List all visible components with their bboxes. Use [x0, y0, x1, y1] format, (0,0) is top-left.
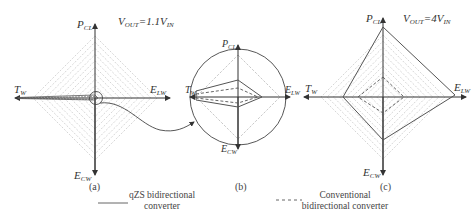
legend-item-conventional: Conventional bidirectional converter — [276, 190, 389, 211]
legend-item-qzs: qZS bidirectional converter — [98, 190, 195, 211]
axis-label-bottom: ECW — [362, 166, 381, 180]
axis-label-top: PCL — [221, 38, 236, 50]
axis-label-right: ELW — [284, 84, 300, 96]
legend-label-line2: converter — [144, 201, 181, 211]
radar-comparison-diagram: PCL ECW TW ELW VOUT=1.1VIN (a) PCL ECW T… — [0, 0, 476, 224]
panel-a: PCL ECW TW ELW VOUT=1.1VIN (a) — [14, 15, 194, 193]
legend-label-line1: Conventional — [319, 190, 371, 200]
legend: qZS bidirectional converter Conventional… — [98, 190, 389, 211]
axis-label-top: PCL — [365, 12, 381, 26]
conventional-polygon — [196, 88, 258, 103]
axis-label-left: TW — [14, 83, 27, 97]
condition-label: VOUT=4VIN — [403, 12, 451, 26]
axis-label-right: ELW — [149, 83, 167, 97]
axis-label-top: PCL — [76, 18, 92, 32]
condition-label: VOUT=1.1VIN — [118, 15, 174, 29]
qzs-polygon — [196, 80, 262, 107]
zoom-connector-arrow — [100, 103, 194, 131]
axis-label-left: TW — [185, 84, 197, 96]
legend-label-line2: bidirectional converter — [302, 201, 389, 211]
caption: (a) — [89, 181, 100, 193]
caption: (c) — [380, 181, 391, 193]
legend-label-line1: qZS bidirectional — [129, 190, 196, 200]
panel-c: PCL ECW TW ELW VOUT=4VIN (c) — [304, 12, 471, 193]
panel-b: PCL ECW TW ELW (b) — [185, 38, 300, 193]
axis-label-right: ELW — [453, 81, 471, 95]
axis-label-left: TW — [305, 82, 318, 96]
caption: (b) — [235, 181, 247, 193]
